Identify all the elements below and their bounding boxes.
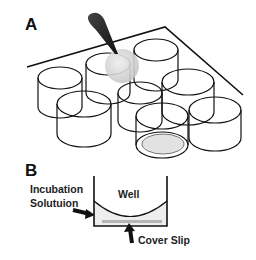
droplet: [105, 49, 139, 83]
well-cross-section: [73, 176, 167, 243]
cover-slip-bar: [102, 220, 162, 223]
incubation-label-line1: Incubation: [30, 183, 83, 196]
well-cylinder: [118, 82, 162, 132]
cover-slip-label: Cover Slip: [138, 234, 190, 247]
cover-slip-disc: [142, 134, 184, 154]
panel-b-label: B: [25, 161, 37, 181]
incubation-label-line2: Solutuion: [30, 197, 78, 210]
well-cylinder: [57, 91, 111, 147]
well-plate-diagram: [0, 0, 256, 260]
well-cylinder: [134, 39, 178, 91]
well-label: Well: [118, 188, 139, 201]
